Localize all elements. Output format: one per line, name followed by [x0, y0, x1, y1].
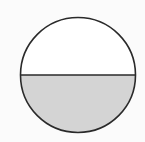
- fraction-circle-diagram: [0, 0, 145, 142]
